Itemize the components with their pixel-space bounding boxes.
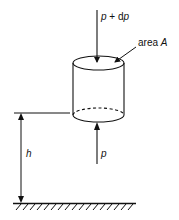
cylinder-bottom-back-dashed <box>73 108 124 115</box>
bottom-force-label: p <box>100 148 107 159</box>
ground-surface <box>13 204 136 211</box>
cylinder-element <box>73 56 124 122</box>
height-dimension-arrow <box>18 113 24 203</box>
area-word: area <box>138 37 161 48</box>
cylinder-top-face <box>73 56 124 70</box>
area-label: area A <box>138 37 168 48</box>
area-symbol: A <box>160 37 168 48</box>
height-label: h <box>26 148 32 159</box>
fluid-element-diagram: p + dp area A h p <box>0 0 179 220</box>
plus-d: + d <box>107 11 124 22</box>
dp-symbol: p <box>123 11 130 22</box>
bottom-force-arrow <box>94 122 100 164</box>
cylinder-bottom-front <box>73 115 124 122</box>
area-leader-arrow <box>115 47 136 62</box>
ground-hatching <box>16 204 133 210</box>
top-force-label: p + dp <box>100 11 130 22</box>
